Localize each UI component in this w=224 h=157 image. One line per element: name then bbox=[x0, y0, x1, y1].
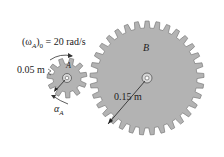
omega-arrowhead bbox=[68, 53, 73, 58]
gears-svg bbox=[0, 0, 224, 157]
gear-b-radius-label: 0.15 m bbox=[114, 91, 142, 102]
alpha-arrowhead bbox=[51, 95, 56, 99]
gear-b-label: B bbox=[143, 42, 149, 53]
omega-label: (ωA)0 = 20 rad/s bbox=[22, 36, 86, 50]
alpha-label: αA bbox=[54, 103, 64, 117]
gear-diagram: (ωA)0 = 20 rad/s 0.05 m A αA B 0.15 m bbox=[0, 0, 224, 157]
gear-a-radius-label: 0.05 m bbox=[17, 64, 45, 75]
gear-b-hub bbox=[142, 73, 152, 83]
gear-a-label: A bbox=[66, 61, 71, 70]
